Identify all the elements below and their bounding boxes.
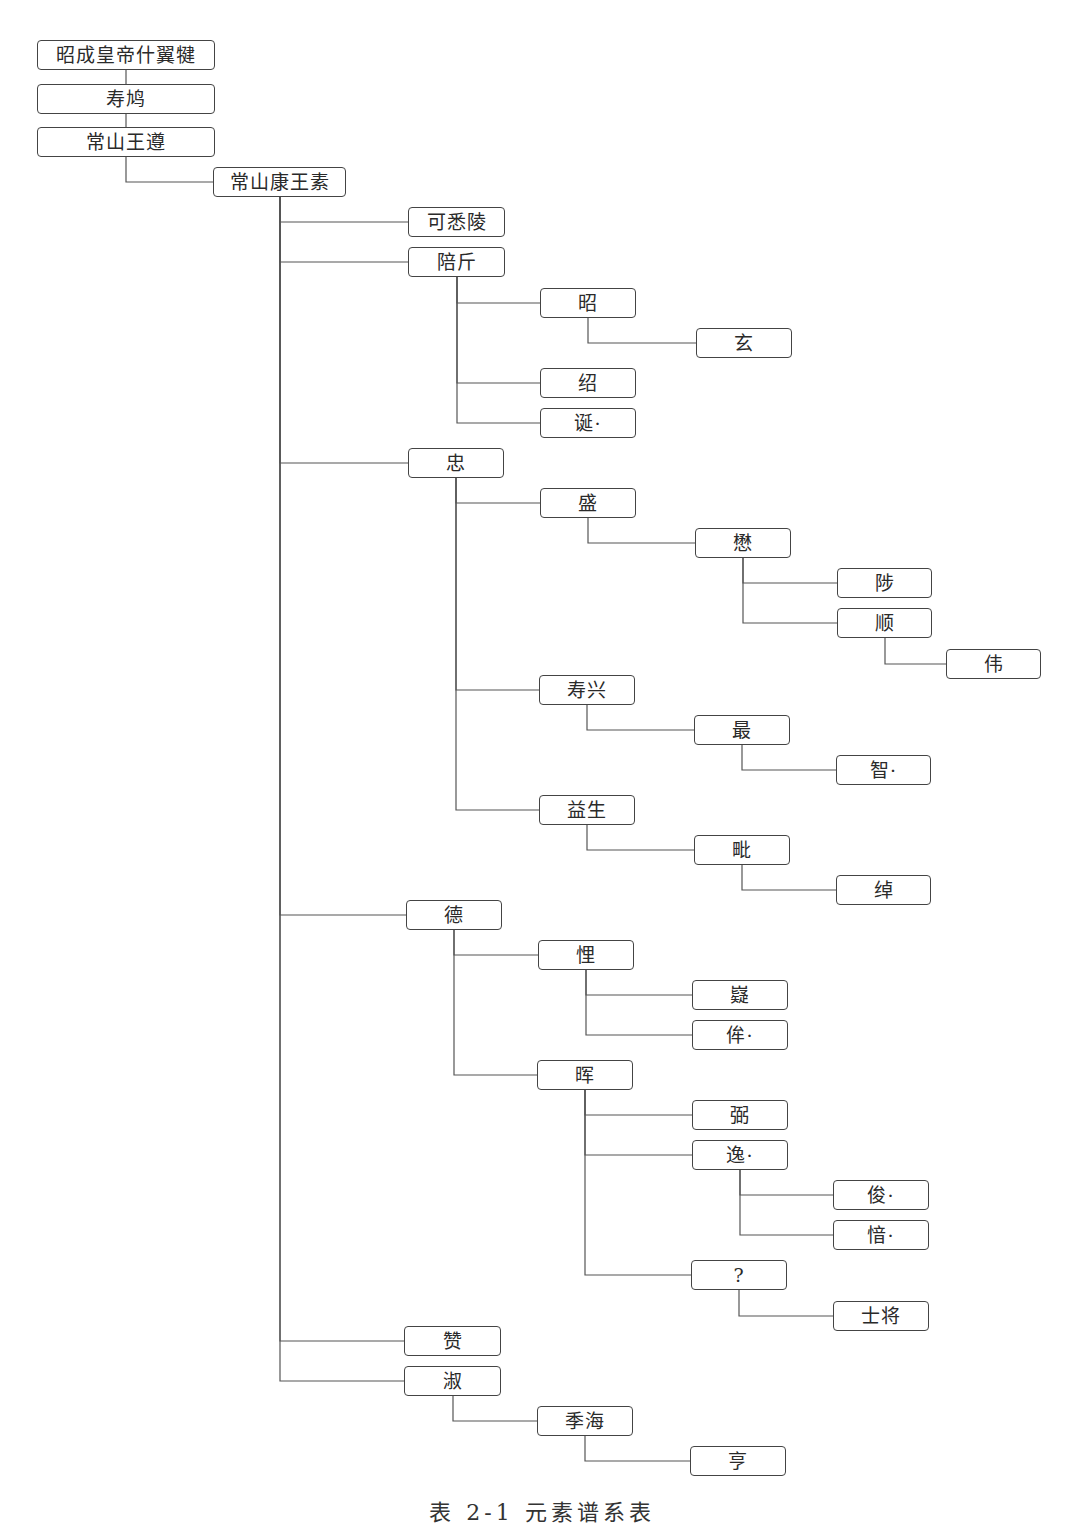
connector-line [457, 277, 540, 423]
connector-line [588, 518, 695, 543]
tree-node: 绍 [540, 368, 636, 398]
tree-node: ? [691, 1260, 787, 1290]
tree-node: 淑 [404, 1366, 501, 1396]
connector-line [280, 197, 404, 1341]
connector-line [454, 930, 537, 1075]
tree-node: 忠 [408, 448, 504, 478]
connector-line [740, 1170, 833, 1195]
connector-line [456, 478, 539, 690]
tree-node: 逸· [692, 1140, 788, 1170]
connector-line [739, 1290, 833, 1316]
tree-node: 常山王遵 [37, 127, 215, 157]
tree-node: 弼 [692, 1100, 788, 1130]
connector-line [280, 197, 408, 463]
connector-line [586, 970, 692, 995]
connector-line [585, 1090, 691, 1275]
figure-caption: 表 2-1 元素谱系表 [0, 1494, 1084, 1526]
tree-node: 晖 [537, 1060, 633, 1090]
connector-line [453, 1396, 537, 1421]
tree-node: 俊· [833, 1180, 929, 1210]
connector-line [126, 157, 213, 182]
connector-line [456, 478, 540, 503]
tree-node: 玄 [696, 328, 792, 358]
connector-line [587, 705, 694, 730]
tree-node: 赞 [404, 1326, 501, 1356]
tree-node: 盛 [540, 488, 636, 518]
tree-node: 可悉陵 [408, 207, 505, 237]
connector-line [743, 558, 837, 623]
connector-line [742, 745, 836, 770]
connector-line [740, 1170, 833, 1235]
tree-node: 绰 [836, 875, 931, 905]
connector-line [454, 930, 538, 955]
tree-node: 最 [694, 715, 790, 745]
connector-line [743, 558, 837, 583]
tree-node: 季海 [537, 1406, 633, 1436]
connector-line [588, 318, 696, 343]
connector-line [587, 825, 694, 850]
connector-line [742, 865, 836, 890]
tree-node: 常山康王素 [213, 167, 346, 197]
connector-line [586, 970, 692, 1035]
connector-line [457, 277, 540, 383]
tree-node: 寿鸠 [37, 84, 215, 114]
connector-line [585, 1090, 692, 1155]
tree-node: 嶷 [692, 980, 788, 1010]
connector-line [885, 638, 946, 664]
tree-node: 陪斤 [408, 247, 505, 277]
tree-node: 顺 [837, 608, 932, 638]
tree-node: 悝 [538, 940, 634, 970]
connector-line [280, 197, 406, 915]
tree-node: 侔· [692, 1020, 788, 1050]
tree-node: 诞· [540, 408, 636, 438]
connector-line [585, 1090, 692, 1115]
tree-node: 寿兴 [539, 675, 635, 705]
tree-node: 愔· [833, 1220, 929, 1250]
connector-line [456, 478, 539, 810]
connector-line [280, 197, 408, 222]
tree-node: 亨 [690, 1446, 786, 1476]
tree-node: 智· [836, 755, 931, 785]
tree-node: 陟 [837, 568, 932, 598]
tree-node: 昭成皇帝什翼犍 [37, 40, 215, 70]
connector-line [280, 197, 408, 262]
tree-node: 益生 [539, 795, 635, 825]
connector-line [280, 197, 404, 1381]
tree-node: 昭 [540, 288, 636, 318]
tree-node: 毗 [694, 835, 790, 865]
tree-node: 伟 [946, 649, 1041, 679]
tree-node: 士将 [833, 1301, 929, 1331]
tree-node: 德 [406, 900, 502, 930]
connector-line [585, 1436, 690, 1461]
tree-node: 懋 [695, 528, 791, 558]
connector-line [457, 277, 540, 303]
